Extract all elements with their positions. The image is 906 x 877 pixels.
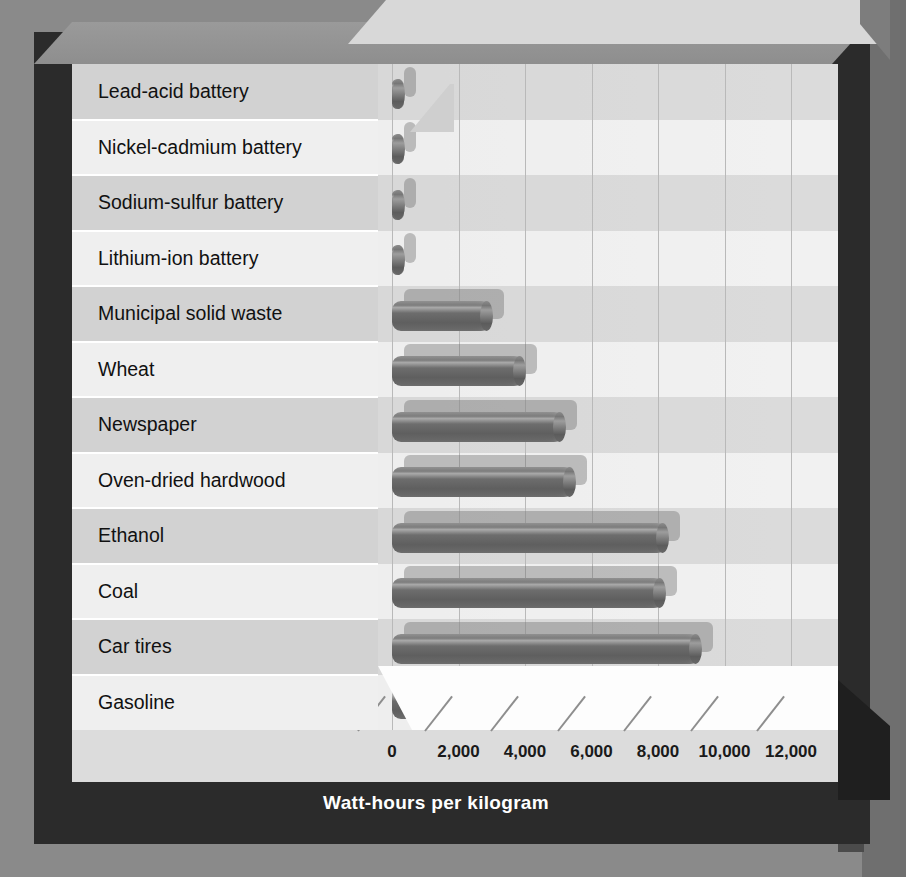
- chart-upper-right-block: [348, 0, 888, 44]
- bar-8: [392, 467, 575, 497]
- category-label-text: Car tires: [98, 635, 172, 658]
- label-row-separator: [72, 341, 378, 343]
- category-label-7: Newspaper: [72, 397, 378, 453]
- bar-end-cap: [553, 412, 566, 442]
- category-label-12: Gasoline: [72, 675, 378, 731]
- bar-7: [392, 412, 565, 442]
- bar-1: [392, 79, 404, 109]
- bar-10: [392, 578, 665, 608]
- gridline-10000: [725, 64, 726, 730]
- x-tick-label-8000: 8,000: [637, 742, 680, 762]
- category-label-1: Lead-acid battery: [72, 64, 378, 120]
- category-label-5: Municipal solid waste: [72, 286, 378, 342]
- bar-end-cap: [392, 79, 405, 109]
- category-label-8: Oven-dried hardwood: [72, 453, 378, 509]
- category-label-text: Sodium-sulfur battery: [98, 191, 283, 214]
- bar-2: [392, 134, 404, 164]
- bar-end-cap: [392, 134, 405, 164]
- category-label-10: Coal: [72, 564, 378, 620]
- bar-end-cap: [392, 245, 405, 275]
- bar-4: [392, 245, 404, 275]
- label-row-separator: [72, 119, 378, 121]
- category-label-text: Coal: [98, 580, 138, 603]
- bar-5: [392, 301, 492, 331]
- category-label-text: Wheat: [98, 358, 154, 381]
- gridline-12000: [791, 64, 792, 730]
- label-row-separator: [72, 507, 378, 509]
- x-tick-label-4000: 4,000: [504, 742, 547, 762]
- x-tick-label-2000: 2,000: [437, 742, 480, 762]
- bar-11: [392, 634, 701, 664]
- x-axis-tick-labels: 02,0004,0006,0008,00010,00012,000: [338, 742, 838, 772]
- gridline-0: [392, 64, 393, 730]
- label-row-separator: [72, 618, 378, 620]
- label-row-separator: [72, 285, 378, 287]
- label-row-separator: [72, 563, 378, 565]
- x-axis-title: Watt-hours per kilogram: [34, 792, 838, 814]
- bar-shadow: [404, 233, 416, 263]
- category-label-4: Lithium-ion battery: [72, 231, 378, 287]
- category-label-panel: Lead-acid batteryNickel-cadmium batteryS…: [72, 64, 378, 730]
- left-frame-column: [34, 64, 72, 782]
- label-row-separator: [72, 674, 378, 676]
- axis-floor-white: [378, 666, 838, 730]
- category-label-11: Car tires: [72, 619, 378, 675]
- category-label-text: Oven-dried hardwood: [98, 469, 286, 492]
- bar-end-cap: [656, 523, 669, 553]
- label-row-separator: [72, 396, 378, 398]
- bar-6: [392, 356, 525, 386]
- category-label-text: Newspaper: [98, 413, 197, 436]
- category-label-text: Ethanol: [98, 524, 164, 547]
- label-row-separator: [72, 230, 378, 232]
- category-label-text: Nickel-cadmium battery: [98, 136, 302, 159]
- plot-area: [378, 64, 838, 730]
- x-tick-label-10000: 10,000: [699, 742, 751, 762]
- bar-3: [392, 190, 404, 220]
- label-row-separator: [72, 452, 378, 454]
- category-label-text: Lithium-ion battery: [98, 247, 258, 270]
- category-label-text: Municipal solid waste: [98, 302, 282, 325]
- category-label-3: Sodium-sulfur battery: [72, 175, 378, 231]
- category-label-text: Gasoline: [98, 691, 175, 714]
- bar-end-cap: [563, 467, 576, 497]
- plot-band-row: [378, 175, 838, 231]
- category-label-6: Wheat: [72, 342, 378, 398]
- bar-end-cap: [392, 190, 405, 220]
- bar-shadow: [404, 67, 416, 97]
- x-tick-label-12000: 12,000: [765, 742, 817, 762]
- x-tick-label-6000: 6,000: [570, 742, 613, 762]
- bar-shadow: [404, 178, 416, 208]
- label-row-separator: [72, 174, 378, 176]
- category-label-text: Lead-acid battery: [98, 80, 249, 103]
- plot-band-row: [378, 231, 838, 287]
- bar-9: [392, 523, 668, 553]
- bar-end-cap: [653, 578, 666, 608]
- category-label-9: Ethanol: [72, 508, 378, 564]
- x-tick-label-0: 0: [387, 742, 396, 762]
- category-label-2: Nickel-cadmium battery: [72, 120, 378, 176]
- bar-shadow: [404, 122, 416, 152]
- bar-end-cap: [480, 301, 493, 331]
